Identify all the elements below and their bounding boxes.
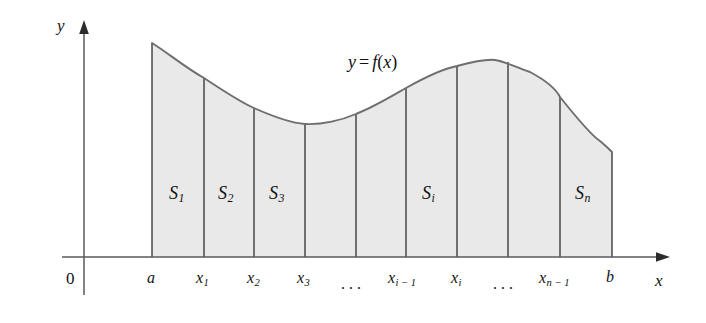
tick-sub-x3: 3 xyxy=(305,277,310,288)
curve-label-y: y xyxy=(348,52,356,72)
y-axis-label: y xyxy=(57,17,65,34)
tick-base-b: b xyxy=(606,268,614,285)
region-label-Sn: Sn xyxy=(575,184,590,205)
tick-label-x1: x1 xyxy=(196,270,209,289)
tick-base-x2: x xyxy=(247,269,254,286)
riemann-sum-figure: y x 0 y=f(x) a x1 x2 x3 ... xi − 1 xi ..… xyxy=(0,0,706,323)
region-sub-Sn: n xyxy=(584,191,590,205)
y-axis xyxy=(79,20,89,295)
tick-ellipsis-right: ... xyxy=(493,276,517,292)
curve-label-close-paren: ) xyxy=(391,52,397,72)
tick-label-xi-1: xi − 1 xyxy=(388,270,416,289)
tick-label-a: a xyxy=(147,270,155,286)
curve-equation-label: y=f(x) xyxy=(348,53,397,71)
region-sub-S1: 1 xyxy=(178,191,184,205)
tick-label-x2: x2 xyxy=(247,270,260,289)
tick-sub-xi-1: i − 1 xyxy=(396,277,417,288)
tick-base-xi: x xyxy=(451,269,458,286)
tick-sub-xn-1: n − 1 xyxy=(547,277,570,288)
region-base-Si: S xyxy=(422,183,431,203)
region-base-S2: S xyxy=(218,183,227,203)
region-sub-Si: i xyxy=(431,191,434,205)
region-label-S3: S3 xyxy=(269,184,284,205)
region-sub-S2: 2 xyxy=(227,191,233,205)
origin-label: 0 xyxy=(66,270,75,287)
y-axis-arrowhead xyxy=(79,20,89,34)
tick-base-xi-1: x xyxy=(388,269,395,286)
tick-label-xi: xi xyxy=(451,270,461,289)
tick-base-x1: x xyxy=(196,269,203,286)
tick-sub-xi: i xyxy=(459,277,462,288)
region-base-S1: S xyxy=(169,183,178,203)
region-label-Si: Si xyxy=(422,184,435,205)
tick-label-x3: x3 xyxy=(297,270,310,289)
tick-label-b: b xyxy=(606,269,614,285)
region-label-S2: S2 xyxy=(218,184,233,205)
curve-label-x: x xyxy=(383,52,391,72)
region-base-Sn: S xyxy=(575,183,584,203)
x-axis-arrowhead xyxy=(656,252,670,262)
tick-base-a: a xyxy=(147,269,155,286)
tick-base-x3: x xyxy=(297,269,304,286)
tick-label-xn-1: xn − 1 xyxy=(539,270,569,289)
shaded-area-under-curve xyxy=(152,43,612,257)
curve-label-equals: = xyxy=(359,52,369,72)
region-label-S1: S1 xyxy=(169,184,184,205)
x-axis-label: x xyxy=(655,272,663,289)
tick-sub-x2: 2 xyxy=(255,277,260,288)
tick-base-xn-1: x xyxy=(539,269,546,286)
tick-sub-x1: 1 xyxy=(204,277,209,288)
region-base-S3: S xyxy=(269,183,278,203)
tick-ellipsis-left: ... xyxy=(341,276,365,292)
region-sub-S3: 3 xyxy=(278,191,284,205)
